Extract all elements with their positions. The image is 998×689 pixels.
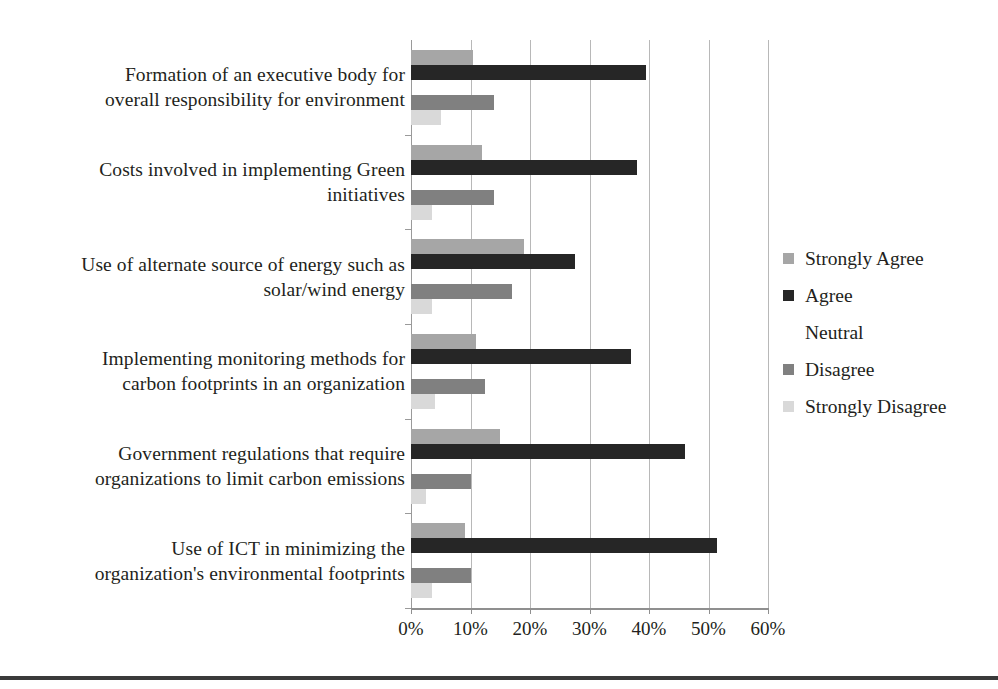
category-label-line: initiatives xyxy=(25,182,405,207)
x-axis-tickmark xyxy=(411,608,412,614)
legend-item[interactable]: Neutral xyxy=(783,314,983,351)
y-axis-tickmark xyxy=(405,419,411,420)
x-axis-tick-label: 20% xyxy=(500,618,560,640)
bar-strongly-agree xyxy=(411,523,465,538)
bar-disagree xyxy=(411,379,485,394)
x-axis-tick-label: 50% xyxy=(679,618,739,640)
legend-swatch-icon xyxy=(783,253,794,264)
chart-figure: Formation of an executive body foroveral… xyxy=(0,0,998,645)
bar-strongly-disagree xyxy=(411,489,426,504)
bar-strongly-agree xyxy=(411,334,476,349)
bar-agree xyxy=(411,444,685,459)
y-axis-tickmark xyxy=(405,229,411,230)
bottom-divider-rule xyxy=(0,676,998,680)
x-axis-tickmark xyxy=(530,608,531,614)
legend-swatch-icon xyxy=(783,364,794,375)
category-label-line: Implementing monitoring methods for xyxy=(25,346,405,371)
bar-agree xyxy=(411,160,637,175)
x-axis-tick-label: 40% xyxy=(619,618,679,640)
legend-label: Agree xyxy=(805,285,853,307)
bar-agree xyxy=(411,65,646,80)
bar-strongly-agree xyxy=(411,429,500,444)
bar-agree xyxy=(411,538,717,553)
x-axis-tick-label: 10% xyxy=(441,618,501,640)
bar-group xyxy=(411,429,768,504)
x-axis-tickmark xyxy=(590,608,591,614)
bar-group xyxy=(411,145,768,220)
category-label-line: carbon footprints in an organization xyxy=(25,371,405,396)
y-axis-tickmark xyxy=(405,513,411,514)
category-label: Implementing monitoring methods forcarbo… xyxy=(25,346,405,396)
x-axis-tick-label: 30% xyxy=(560,618,620,640)
legend-swatch-icon xyxy=(783,327,794,338)
category-labels: Formation of an executive body foroveral… xyxy=(10,0,405,645)
bar-group xyxy=(411,239,768,314)
category-label-line: Use of alternate source of energy such a… xyxy=(25,252,405,277)
x-axis-tick-labels: 0%10%20%30%40%50%60% xyxy=(0,618,998,648)
bar-strongly-disagree xyxy=(411,299,432,314)
bar-group xyxy=(411,523,768,598)
y-axis-tickmark xyxy=(405,324,411,325)
x-axis-tickmark xyxy=(649,608,650,614)
bar-strongly-disagree xyxy=(411,394,435,409)
legend-swatch-icon xyxy=(783,290,794,301)
bar-disagree xyxy=(411,284,512,299)
x-axis-tick-label: 60% xyxy=(738,618,798,640)
category-label-line: Costs involved in implementing Green xyxy=(25,157,405,182)
category-label: Formation of an executive body foroveral… xyxy=(25,62,405,112)
legend-swatch-icon xyxy=(783,401,794,412)
legend-item[interactable]: Strongly Agree xyxy=(783,240,983,277)
y-axis-tickmark xyxy=(405,135,411,136)
bar-disagree xyxy=(411,568,471,583)
gridline xyxy=(768,40,769,608)
bar-disagree xyxy=(411,190,494,205)
category-label-line: organizations to limit carbon emissions xyxy=(25,466,405,491)
category-label: Costs involved in implementing Greeninit… xyxy=(25,157,405,207)
category-label: Government regulations that requireorgan… xyxy=(25,441,405,491)
bar-disagree xyxy=(411,474,471,489)
category-label-line: Use of ICT in minimizing the xyxy=(25,536,405,561)
category-label-line: solar/wind energy xyxy=(25,277,405,302)
legend-label: Strongly Disagree xyxy=(805,396,946,418)
bar-agree xyxy=(411,349,631,364)
bar-agree xyxy=(411,254,575,269)
x-axis-tickmark xyxy=(768,608,769,614)
bar-group xyxy=(411,50,768,125)
category-label-line: overall responsibility for environment xyxy=(25,87,405,112)
x-axis-tick-label: 0% xyxy=(381,618,441,640)
category-label-line: organization's environmental footprints xyxy=(25,561,405,586)
chart-legend: Strongly AgreeAgreeNeutralDisagreeStrong… xyxy=(783,240,983,425)
bar-strongly-disagree xyxy=(411,110,441,125)
legend-label: Strongly Agree xyxy=(805,248,924,270)
bar-disagree xyxy=(411,95,494,110)
category-label: Use of alternate source of energy such a… xyxy=(25,252,405,302)
legend-label: Neutral xyxy=(805,322,863,344)
bar-strongly-agree xyxy=(411,50,473,65)
bar-strongly-disagree xyxy=(411,205,432,220)
legend-item[interactable]: Disagree xyxy=(783,351,983,388)
legend-item[interactable]: Strongly Disagree xyxy=(783,388,983,425)
legend-label: Disagree xyxy=(805,359,874,381)
category-label-line: Formation of an executive body for xyxy=(25,62,405,87)
bar-strongly-disagree xyxy=(411,583,432,598)
category-label: Use of ICT in minimizing theorganization… xyxy=(25,536,405,586)
category-label-line: Government regulations that require xyxy=(25,441,405,466)
legend-item[interactable]: Agree xyxy=(783,277,983,314)
x-axis-tickmark xyxy=(471,608,472,614)
x-axis-tickmark xyxy=(709,608,710,614)
bar-strongly-agree xyxy=(411,145,482,160)
bar-strongly-agree xyxy=(411,239,524,254)
bar-group xyxy=(411,334,768,409)
